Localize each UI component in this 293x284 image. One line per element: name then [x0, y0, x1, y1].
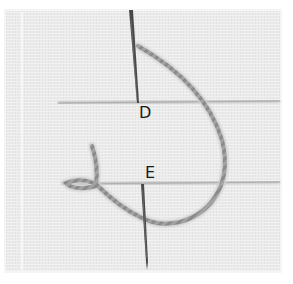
fabric-canvas: [0, 0, 293, 284]
point-label-e: E: [145, 165, 155, 181]
point-label-d: D: [139, 105, 151, 121]
stitch-illustration: D E: [0, 0, 293, 284]
